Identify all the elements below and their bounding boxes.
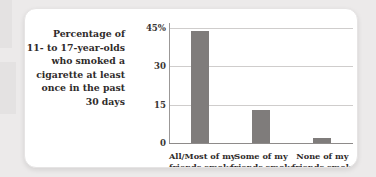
x-tick-label-all-most: All/Most of my friends smoke	[169, 151, 230, 168]
y-tick-label-0: 0	[160, 138, 166, 148]
caption-line-2: 11- to 17-year-olds	[24, 41, 125, 55]
x-axis-line	[169, 143, 353, 144]
x-tick-label-some: Some of my friends smoke	[230, 151, 291, 168]
x-tick-label-some-line1: Some of my	[230, 151, 291, 162]
x-tick-label-all-most-line2: friends smoke	[169, 162, 230, 168]
y-tick-label-45: 45%	[146, 23, 166, 33]
plot-area	[169, 28, 353, 144]
caption-line-1: Percentage of	[24, 27, 125, 41]
y-axis-tick-labels: 45% 30 15 0	[140, 25, 166, 149]
caption-line-6: 30 days	[24, 95, 125, 109]
bar-some-friends-smoke[interactable]	[252, 110, 270, 143]
y-axis-line	[169, 23, 170, 144]
bar-chart: 45% 30 15 0 All/Most of my friends smoke…	[140, 25, 355, 165]
y-tick-label-30: 30	[154, 61, 166, 71]
caption-line-5: once in the past	[24, 81, 125, 95]
bar-none-friends-smoke[interactable]	[313, 138, 331, 143]
chart-card: Percentage of 11- to 17-year-olds who sm…	[24, 8, 358, 168]
x-tick-label-some-line2: friends smoke	[230, 162, 291, 168]
caption-line-4: cigarette at least	[24, 68, 125, 82]
bar-all-most-friends-smoke[interactable]	[191, 31, 209, 143]
x-axis-tick-labels: All/Most of my friends smoke Some of my …	[169, 151, 355, 168]
caption-line-3: who smoked a	[24, 54, 125, 68]
x-tick-label-none: None of my friends smoke	[292, 151, 353, 168]
chart-caption: Percentage of 11- to 17-year-olds who sm…	[24, 27, 125, 109]
x-tick-label-none-line2: friends smoke	[292, 162, 353, 168]
gridline-45	[170, 28, 353, 29]
x-tick-label-none-line1: None of my	[292, 151, 353, 162]
y-tick-label-15: 15	[154, 100, 166, 110]
x-tick-label-all-most-line1: All/Most of my	[169, 151, 230, 162]
